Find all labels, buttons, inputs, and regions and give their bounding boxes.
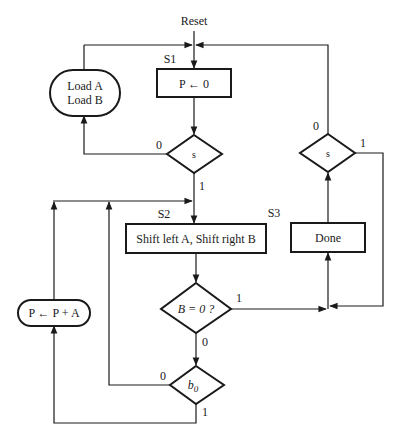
decision-bzero-yes: 1 xyxy=(236,291,242,305)
decision-s-left-text: s xyxy=(192,149,196,160)
decision-bzero-text: B = 0 ? xyxy=(178,302,214,316)
decision-b0-no: 0 xyxy=(160,369,166,383)
s-no-to-load-arrow xyxy=(84,116,167,154)
reset-label: Reset xyxy=(181,14,208,28)
conditional-load-line1: Load A xyxy=(67,79,103,93)
state-s1-label: S1 xyxy=(164,52,177,66)
state-s3-label: S3 xyxy=(268,206,281,220)
state-s2-label: S2 xyxy=(158,207,171,221)
decision-b0-yes: 1 xyxy=(202,405,208,419)
decision-s-right-text: s xyxy=(326,148,330,159)
conditional-add-text: P ← P + A xyxy=(28,306,80,320)
decision-bzero-no: 0 xyxy=(202,335,208,349)
asm-chart-canvas: Reset S1 P ← 0 s 0 1 Load A Load B S2 Sh… xyxy=(0,0,400,444)
decision-s-left-yes: 1 xyxy=(199,179,205,193)
state-s1-action: P ← 0 xyxy=(179,77,209,91)
state-s2-action: Shift left A, Shift right B xyxy=(136,232,255,246)
decision-s-right-yes: 1 xyxy=(360,136,366,150)
state-s3-action: Done xyxy=(315,231,341,245)
decision-s-right-no: 0 xyxy=(313,119,319,133)
b0-yes-to-add-arrow xyxy=(54,326,196,423)
conditional-load-line2: Load B xyxy=(67,93,103,107)
decision-s-left-no: 0 xyxy=(156,138,162,152)
